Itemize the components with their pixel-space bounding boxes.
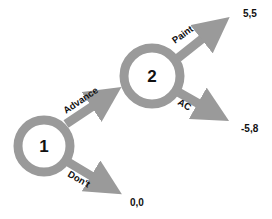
node-label-2: 2 (147, 67, 156, 86)
node-2: 2 (124, 48, 180, 104)
node-1: 1 (18, 120, 70, 172)
payoff-neg5-8: -5,8 (241, 123, 259, 134)
edge-paint: Paint (170, 23, 217, 58)
payoff-5-5: 5,5 (243, 8, 257, 19)
payoff-0-0: 0,0 (130, 197, 144, 208)
node-label-1: 1 (39, 137, 48, 156)
edge-advance: Advance (61, 84, 108, 124)
game-tree-diagram: Advance Don't Paint AC 1 2 5,5 -5,8 0,0 (0, 0, 272, 219)
edge-ac: AC (176, 92, 215, 113)
edge-dont: Don't (66, 162, 108, 190)
